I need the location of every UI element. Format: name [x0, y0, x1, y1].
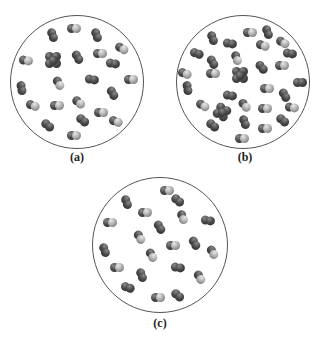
atom-sphere	[55, 101, 64, 110]
atom-sphere	[171, 241, 180, 250]
atom-sphere	[115, 263, 124, 272]
atom-sphere	[298, 78, 307, 87]
atom-sphere	[49, 56, 58, 65]
atom-sphere	[265, 84, 274, 93]
atom-sphere	[108, 218, 117, 227]
panel-c-label: (c)	[153, 316, 166, 331]
atom-sphere	[165, 186, 174, 195]
atom-sphere	[72, 131, 81, 140]
atom-sphere	[240, 134, 249, 143]
atom-sphere	[72, 24, 81, 33]
panel-b-label: (b)	[238, 150, 253, 165]
atom-sphere	[99, 108, 108, 117]
atom-sphere	[143, 208, 152, 217]
atom-sphere	[98, 49, 107, 58]
atom-sphere	[248, 28, 257, 37]
atom-sphere	[129, 75, 138, 84]
atom-sphere	[211, 69, 220, 78]
atom-sphere	[280, 61, 289, 70]
atom-sphere	[263, 124, 272, 133]
panel-a-label: (a)	[70, 150, 84, 165]
atom-sphere	[236, 71, 245, 80]
atom-sphere	[156, 293, 165, 302]
atom-sphere	[263, 104, 272, 113]
